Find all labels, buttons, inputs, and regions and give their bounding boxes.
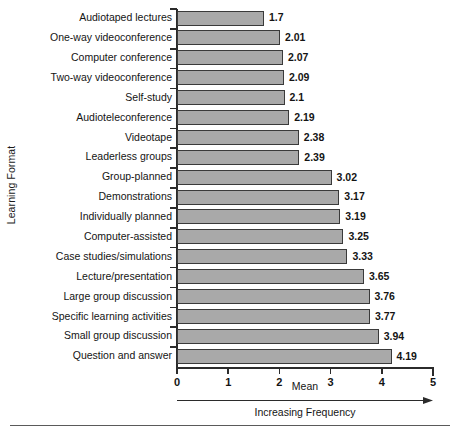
bar-row: Leaderless groups2.39 [177,148,433,168]
y-axis-tick [170,108,177,110]
y-axis-title-label: Learning Format [5,146,17,225]
bar-row: Individually planned3.19 [177,208,433,228]
y-axis-tick [170,287,177,289]
y-axis-tick [170,247,177,249]
x-axis-tick [330,367,332,374]
bar-row: Case studies/simulations3.33 [177,248,433,268]
y-axis-tick [170,207,177,209]
bar-row: Self-study2.1 [177,89,433,109]
footer-divider [10,425,450,426]
y-axis-title: Learning Format [0,0,22,370]
bar [177,50,283,65]
bar [177,70,284,85]
bar-value-label: 2.07 [288,51,308,63]
y-axis-tick [170,88,177,90]
y-axis-tick [170,346,177,348]
bar-value-label: 3.17 [344,190,364,202]
category-label: Videotape [125,131,172,143]
y-axis-tick [170,187,177,189]
bar-value-label: 3.19 [345,210,365,222]
increasing-frequency-caption: Increasing Frequency [177,406,433,418]
x-axis-tick [176,367,178,374]
increasing-frequency-arrow [177,396,433,405]
bar [177,30,280,45]
bar-value-label: 3.33 [352,250,372,262]
bar [177,249,347,264]
y-axis-tick [170,128,177,130]
category-label: Audiotaped lectures [79,11,172,23]
bar-value-label: 3.94 [384,330,404,342]
category-label: Small group discussion [64,329,172,341]
bar-row: Audioteleconference2.19 [177,108,433,128]
bar [177,269,364,284]
y-axis-tick [170,326,177,328]
bar-row: Videotape2.38 [177,128,433,148]
bar-value-label: 3.77 [375,310,395,322]
bar-value-label: 2.01 [285,31,305,43]
category-label: Large group discussion [63,290,172,302]
bar [177,190,339,205]
bar [177,90,285,105]
bar [177,110,289,125]
bar [177,150,299,165]
horizontal-bar-chart: Learning Format Audiotaped lectures1.7On… [0,0,455,436]
y-axis-tick [170,227,177,229]
x-axis-tick [381,367,383,374]
bar [177,11,264,26]
bar-value-label: 2.1 [290,91,305,103]
bar-row: Group-planned3.02 [177,168,433,188]
bar [177,309,370,324]
category-label: Group-planned [102,170,172,182]
bar-row: Computer conference2.07 [177,49,433,69]
category-label: Computer conference [71,51,172,63]
bar-value-label: 1.7 [269,11,284,23]
bar-value-label: 3.76 [375,290,395,302]
category-label: Individually planned [80,210,172,222]
y-axis-tick [170,8,177,10]
category-label: One-way videoconference [50,31,172,43]
bar-row: Lecture/presentation3.65 [177,268,433,288]
category-label: Leaderless groups [86,150,172,162]
plot-area: Audiotaped lectures1.7One-way videoconfe… [177,9,433,367]
bar-row: Small group discussion3.94 [177,327,433,347]
category-label: Demonstrations [98,190,172,202]
y-axis-tick [170,267,177,269]
y-axis-tick [170,28,177,30]
bar-value-label: 3.65 [369,270,389,282]
bar-row: Demonstrations3.17 [177,188,433,208]
x-axis-tick [227,367,229,374]
bar-row: Question and answer4.19 [177,347,433,367]
bar-row: One-way videoconference2.01 [177,29,433,49]
category-label: Self-study [125,91,172,103]
bar-value-label: 2.38 [304,131,324,143]
bar-row: Large group discussion3.76 [177,287,433,307]
bar [177,289,370,304]
y-axis-tick [170,48,177,50]
category-label: Audioteleconference [76,111,172,123]
bar-row: Specific learning activities3.77 [177,307,433,327]
category-label: Specific learning activities [52,310,172,322]
bar [177,349,392,364]
x-axis-tick [432,367,434,374]
bar-value-label: 2.09 [289,71,309,83]
bar-value-label: 4.19 [397,350,417,362]
bar [177,329,379,344]
y-axis-tick [170,167,177,169]
category-label: Question and answer [73,349,172,361]
bar-row: Two-way videoconference2.09 [177,69,433,89]
x-axis-title: Mean [177,380,433,392]
x-axis-line [176,367,433,369]
bar-value-label: 3.25 [348,230,368,242]
bar [177,130,299,145]
category-label: Lecture/presentation [76,270,172,282]
bar-value-label: 2.39 [304,151,324,163]
bar-row: Audiotaped lectures1.7 [177,9,433,29]
category-label: Computer-assisted [84,230,172,242]
bar-row: Computer-assisted3.25 [177,228,433,248]
y-axis-tick [170,68,177,70]
bar-value-label: 2.19 [294,111,314,123]
y-axis-tick [170,147,177,149]
x-axis-tick [279,367,281,374]
category-label: Two-way videoconference [51,71,172,83]
bar [177,170,332,185]
